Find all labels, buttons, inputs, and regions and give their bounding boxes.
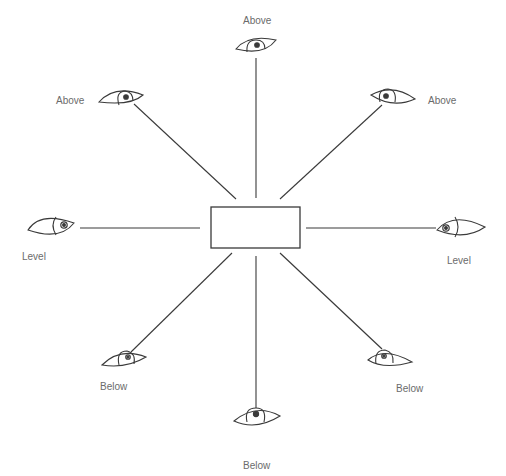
eye-icon-bottom-right — [368, 350, 412, 366]
eye-icon-bottom — [234, 408, 280, 425]
label-bottom: Below — [243, 460, 270, 471]
center-object-rectangle — [211, 207, 300, 248]
viewpoint-diagram — [0, 0, 506, 476]
label-bottom-right: Below — [396, 383, 423, 394]
label-left: Level — [22, 251, 46, 262]
line-bottom-right — [280, 253, 382, 349]
line-bottom-left — [131, 253, 232, 352]
eye-icon-left — [28, 217, 74, 235]
label-top: Above — [243, 15, 271, 26]
line-top-left — [134, 104, 236, 199]
eye-icon-top-left — [99, 91, 143, 105]
line-top-right — [280, 105, 382, 199]
eye-icon-right — [437, 217, 485, 237]
label-top-right: Above — [428, 95, 456, 106]
label-right: Level — [447, 255, 471, 266]
label-bottom-left: Below — [100, 381, 127, 392]
eye-icon-top-right — [371, 89, 415, 103]
eye-icon-top — [236, 38, 276, 52]
label-top-left: Above — [56, 95, 84, 106]
eye-icon-bottom-left — [102, 351, 146, 366]
